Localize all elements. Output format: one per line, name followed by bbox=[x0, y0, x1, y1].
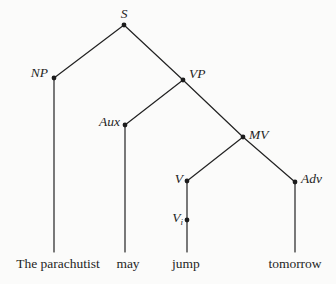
edge-s-vp bbox=[124, 25, 183, 80]
terminal-word-np: The parachutist bbox=[16, 256, 100, 271]
node-label-aux: Aux bbox=[99, 115, 120, 129]
edge-vp-aux bbox=[125, 80, 183, 125]
terminal-word-adv: tomorrow bbox=[268, 256, 321, 271]
terminal-word-v: jump bbox=[172, 256, 200, 271]
node-dot-aux bbox=[123, 123, 128, 128]
node-dot-s bbox=[122, 23, 127, 28]
node-dot-mv bbox=[241, 135, 246, 140]
edge-vp-mv bbox=[183, 80, 243, 137]
node-label-v: V bbox=[175, 172, 183, 186]
node-label-vi-subscript: i bbox=[180, 217, 183, 227]
edge-mv-v bbox=[187, 137, 243, 181]
node-dot-vp bbox=[181, 78, 186, 83]
node-label-adv: Adv bbox=[301, 172, 322, 186]
node-label-s: S bbox=[121, 7, 128, 21]
node-dot-adv bbox=[293, 180, 298, 185]
node-label-vi: Vi bbox=[172, 211, 183, 229]
node-dot-v bbox=[185, 179, 190, 184]
tree-edges-and-dots bbox=[0, 0, 336, 284]
terminal-word-aux: may bbox=[116, 256, 139, 271]
node-dot-np bbox=[52, 76, 57, 81]
node-dot-vi bbox=[185, 218, 190, 223]
syntax-tree-figure: S NP VP Aux MV V Adv Vi The parachutist … bbox=[0, 0, 336, 284]
edge-s-np bbox=[54, 25, 124, 78]
edge-mv-adv bbox=[243, 137, 295, 182]
node-label-mv: MV bbox=[249, 128, 269, 142]
node-label-np: NP bbox=[31, 66, 48, 80]
node-label-vp: VP bbox=[189, 67, 206, 81]
